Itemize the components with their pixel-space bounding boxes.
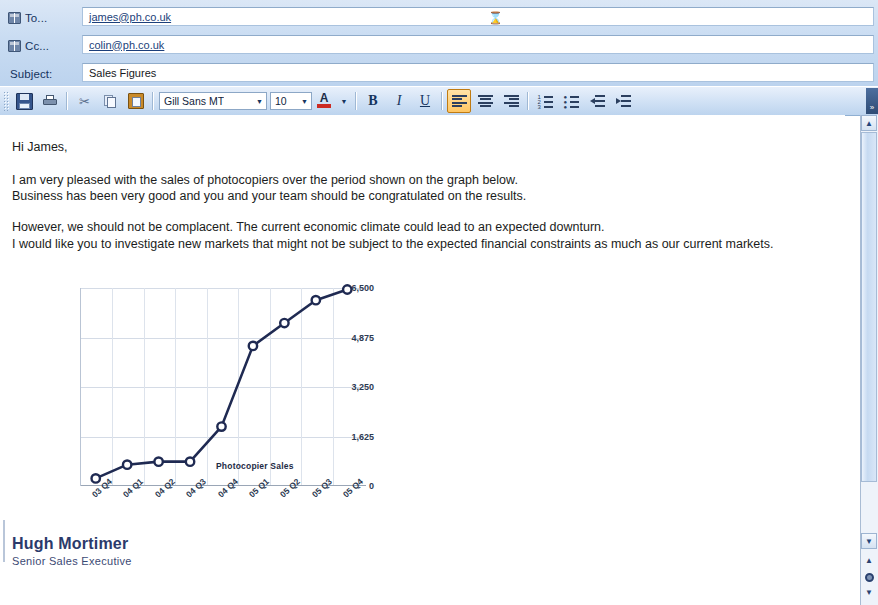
clipboard-icon bbox=[128, 93, 144, 109]
cut-button[interactable]: ✂ bbox=[72, 89, 96, 113]
numbered-list-icon: 1 2 3 bbox=[538, 95, 553, 107]
address-book-icon[interactable] bbox=[8, 12, 21, 24]
signature-title: Senior Sales Executive bbox=[12, 555, 132, 567]
chart-legend: Photocopier Sales bbox=[216, 461, 294, 471]
chevron-down-icon[interactable]: ▼ bbox=[253, 93, 266, 109]
bullet-list-button[interactable]: ● ● ● bbox=[559, 89, 583, 113]
address-book-icon[interactable] bbox=[8, 40, 21, 52]
align-left-button[interactable] bbox=[447, 89, 471, 113]
save-icon bbox=[16, 93, 33, 110]
signature-name: Hugh Mortimer bbox=[12, 535, 132, 553]
chevron-down-icon: ▼ bbox=[865, 537, 873, 546]
next-object-button[interactable]: ▼ bbox=[863, 587, 875, 599]
scrollbar-thumb[interactable] bbox=[861, 132, 877, 482]
chart-data-point bbox=[280, 319, 288, 327]
paragraph2-line1: However, we should not be complacent. Th… bbox=[12, 220, 604, 234]
scissors-icon: ✂ bbox=[79, 95, 90, 108]
underline-icon: U bbox=[420, 93, 430, 109]
chart-y-tick-label: 3,250 bbox=[322, 382, 374, 392]
decrease-indent-icon bbox=[590, 95, 605, 107]
signature-margin-rule bbox=[3, 520, 5, 562]
cc-field[interactable]: colin@ph.co.uk bbox=[82, 35, 874, 54]
chart-y-tick-label: 1,625 bbox=[322, 432, 374, 442]
to-label-text: To... bbox=[25, 12, 47, 24]
cc-label-text: Cc... bbox=[25, 40, 49, 52]
copy-icon bbox=[104, 95, 117, 108]
italic-icon: I bbox=[397, 93, 402, 109]
previous-object-button[interactable]: ▲ bbox=[863, 555, 875, 567]
toolbar-separator bbox=[441, 92, 443, 110]
decrease-indent-button[interactable] bbox=[585, 89, 609, 113]
message-body[interactable]: Hi James, I am very pleased with the sal… bbox=[0, 115, 845, 605]
copy-button[interactable] bbox=[98, 89, 122, 113]
toolbar-overflow-icon: » bbox=[870, 103, 874, 112]
paragraph1-line1: I am very pleased with the sales of phot… bbox=[12, 173, 518, 187]
printer-icon bbox=[42, 95, 58, 108]
subject-value: Sales Figures bbox=[89, 67, 156, 79]
chart-data-point bbox=[249, 342, 257, 350]
bold-button[interactable]: B bbox=[361, 89, 385, 113]
increase-indent-button[interactable] bbox=[611, 89, 635, 113]
toolbar-separator bbox=[66, 92, 68, 110]
align-right-icon bbox=[504, 95, 519, 107]
chevron-down-icon[interactable]: ▼ bbox=[298, 93, 311, 109]
bold-icon: B bbox=[368, 93, 377, 109]
chart-series-line bbox=[96, 290, 348, 479]
toolbar-overflow-button[interactable]: » bbox=[866, 88, 878, 114]
print-button[interactable] bbox=[38, 89, 62, 113]
cc-label[interactable]: Cc... bbox=[8, 33, 82, 58]
subject-label: Subject: bbox=[8, 61, 84, 86]
font-color-swatch bbox=[317, 104, 331, 108]
numbered-list-button[interactable]: 1 2 3 bbox=[533, 89, 557, 113]
increase-indent-icon bbox=[616, 95, 631, 107]
align-center-icon bbox=[478, 95, 493, 107]
scroll-down-button[interactable]: ▼ bbox=[861, 533, 877, 549]
subject-row: Subject: Sales Figures bbox=[0, 61, 878, 86]
signature-block: Hugh Mortimer Senior Sales Executive bbox=[12, 535, 132, 567]
paste-button[interactable] bbox=[124, 89, 148, 113]
chart-data-point bbox=[186, 457, 194, 465]
paragraph1-line2: Business has been very good and you and … bbox=[12, 189, 526, 203]
to-label[interactable]: To... bbox=[8, 5, 82, 30]
to-field[interactable]: james@ph.co.uk bbox=[82, 7, 874, 26]
toolbar-separator bbox=[355, 92, 357, 110]
chevron-down-icon[interactable]: ▼ bbox=[341, 98, 348, 105]
subject-field[interactable]: Sales Figures bbox=[82, 63, 874, 82]
font-size-select[interactable]: 10 ▼ bbox=[270, 92, 312, 110]
photocopier-sales-chart[interactable]: Photocopier Sales 01,6253,2504,8756,5000… bbox=[24, 278, 374, 533]
underline-button[interactable]: U bbox=[413, 89, 437, 113]
to-value: james@ph.co.uk bbox=[89, 11, 171, 23]
vertical-scrollbar[interactable]: ▲ ▼ ▲ ▼ bbox=[860, 115, 878, 605]
scroll-up-button[interactable]: ▲ bbox=[861, 115, 877, 131]
italic-button[interactable]: I bbox=[387, 89, 411, 113]
chart-y-tick-label: 4,875 bbox=[322, 333, 374, 343]
greeting-line: Hi James, bbox=[12, 140, 68, 154]
chart-data-point bbox=[217, 422, 225, 430]
double-down-arrow-icon: ▼ bbox=[865, 589, 873, 597]
toolbar-grip[interactable] bbox=[3, 91, 9, 111]
font-size-value: 10 bbox=[271, 95, 287, 107]
chart-data-point bbox=[92, 474, 100, 482]
font-color-dropdown[interactable]: ▼ bbox=[337, 89, 351, 113]
align-left-icon bbox=[452, 95, 467, 107]
chevron-up-icon: ▲ bbox=[865, 119, 873, 128]
font-family-value: Gill Sans MT bbox=[160, 95, 224, 107]
font-color-button[interactable]: A bbox=[313, 89, 335, 113]
font-color-letter: A bbox=[320, 93, 329, 104]
text-cursor-icon: ⌛ bbox=[488, 12, 498, 24]
font-family-select[interactable]: Gill Sans MT ▼ bbox=[159, 92, 267, 110]
cc-row: Cc... colin@ph.co.uk bbox=[0, 33, 878, 58]
browse-object-icon bbox=[865, 573, 874, 582]
cc-value: colin@ph.co.uk bbox=[89, 39, 164, 51]
chart-y-tick-label: 6,500 bbox=[322, 283, 374, 293]
align-center-button[interactable] bbox=[473, 89, 497, 113]
chart-data-point bbox=[154, 457, 162, 465]
double-up-arrow-icon: ▲ bbox=[865, 557, 873, 565]
bullet-list-icon: ● ● ● bbox=[564, 95, 579, 107]
subject-label-text: Subject: bbox=[10, 68, 52, 80]
toolbar-separator bbox=[152, 92, 154, 110]
font-color-icon: A bbox=[316, 93, 332, 109]
save-button[interactable] bbox=[12, 89, 36, 113]
align-right-button[interactable] bbox=[499, 89, 523, 113]
select-browse-object-button[interactable] bbox=[863, 571, 875, 583]
